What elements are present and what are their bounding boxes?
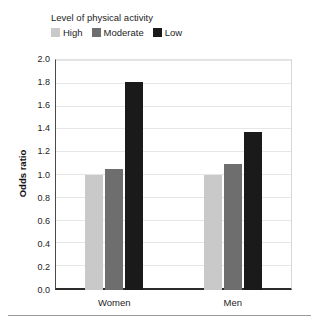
y-tick-label: 1.4 (37, 123, 50, 133)
legend-items: HighModerateLow (51, 27, 291, 38)
x-tick-label-men: Men (224, 297, 242, 308)
legend-label-high: High (63, 27, 83, 38)
bar-men-moderate (224, 164, 242, 290)
legend-title: Level of physical activity (51, 12, 291, 24)
bottom-divider (8, 315, 311, 316)
y-tick-label: 0.2 (37, 262, 50, 272)
y-tick-label: 1.0 (37, 170, 50, 180)
bar-women-moderate (105, 169, 123, 290)
legend-label-low: Low (165, 27, 182, 38)
y-tick-label: 1.8 (37, 77, 50, 87)
bar-women-low (125, 82, 143, 290)
y-tick-label: 0.0 (37, 285, 50, 295)
legend-item-moderate: Moderate (92, 27, 144, 38)
y-tick-label: 1.6 (37, 100, 50, 110)
legend-label-moderate: Moderate (104, 27, 144, 38)
legend-swatch-low (153, 28, 162, 37)
bar-group-inner (85, 59, 143, 290)
y-axis-title: Odds ratio (17, 139, 28, 209)
legend-item-high: High (51, 27, 83, 38)
bar-men-high (204, 175, 222, 291)
y-tick-label: 2.0 (37, 54, 50, 64)
legend-swatch-high (51, 28, 60, 37)
figure: Level of physical activity HighModerateL… (0, 0, 319, 326)
bar-group-women: Women (55, 59, 174, 290)
bar-groups: WomenMen (55, 59, 292, 290)
plot-wrapper: 0.00.20.40.60.81.01.21.41.61.82.0 WomenM… (55, 59, 292, 290)
bar-group-inner (204, 59, 262, 290)
legend: Level of physical activity HighModerateL… (51, 12, 291, 38)
y-tick-label: 0.8 (37, 193, 50, 203)
y-tick-label: 0.6 (37, 216, 50, 226)
bar-group-men: Men (174, 59, 293, 290)
bar-women-high (85, 175, 103, 291)
y-tick-label: 0.4 (37, 239, 50, 249)
x-tick-label-women: Women (98, 297, 131, 308)
bar-men-low (244, 132, 262, 290)
legend-item-low: Low (153, 27, 182, 38)
legend-swatch-moderate (92, 28, 101, 37)
y-tick-label: 1.2 (37, 146, 50, 156)
